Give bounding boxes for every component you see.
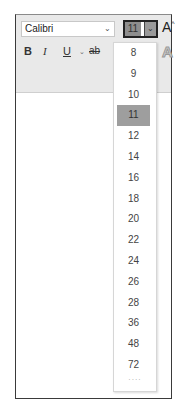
font-size-dropdown-list: 8 9 10 11 12 14 16 18 20 22 24 26 28 36 …	[113, 42, 157, 392]
font-size-option-selected[interactable]: 11	[117, 105, 150, 126]
chevron-down-icon[interactable]: ⌄	[144, 22, 156, 36]
grow-font-icon: A	[162, 19, 171, 35]
font-size-option[interactable]: 9	[117, 64, 150, 85]
font-size-option[interactable]: 24	[117, 251, 150, 272]
font-size-option[interactable]: 12	[117, 126, 150, 147]
font-size-option[interactable]: 18	[117, 189, 150, 210]
font-size-option[interactable]: 28	[117, 293, 150, 314]
chevron-down-icon[interactable]: ⌄	[104, 22, 111, 36]
caret-up-icon: ^	[171, 20, 174, 27]
font-name-combobox[interactable]: Calibri ⌄	[21, 21, 115, 37]
font-size-option[interactable]: 16	[117, 168, 150, 189]
text-effects-button[interactable]: A	[162, 43, 173, 60]
font-size-option[interactable]: 36	[117, 313, 150, 334]
underline-button[interactable]: U	[63, 45, 71, 57]
font-size-option[interactable]: 14	[117, 147, 150, 168]
resize-grip-icon[interactable]: ····	[114, 376, 156, 384]
font-size-option[interactable]: 72	[117, 355, 150, 376]
underline-options-chevron-icon[interactable]: ⌄	[79, 48, 85, 56]
grow-font-button[interactable]: A^	[162, 19, 175, 35]
strikethrough-button[interactable]: ab	[89, 45, 100, 56]
font-size-value[interactable]: 11	[125, 22, 141, 36]
font-size-option[interactable]: 20	[117, 209, 150, 230]
font-size-combobox[interactable]: 11 ⌄	[123, 20, 158, 38]
font-size-option[interactable]: 22	[117, 230, 150, 251]
font-size-option[interactable]: 26	[117, 272, 150, 293]
font-size-option[interactable]: 10	[117, 85, 150, 106]
bold-button[interactable]: B	[24, 45, 32, 57]
font-name-value: Calibri	[25, 23, 53, 34]
font-size-option[interactable]: 8	[117, 43, 150, 64]
italic-button[interactable]: I	[43, 45, 47, 57]
font-size-option[interactable]: 48	[117, 334, 150, 355]
